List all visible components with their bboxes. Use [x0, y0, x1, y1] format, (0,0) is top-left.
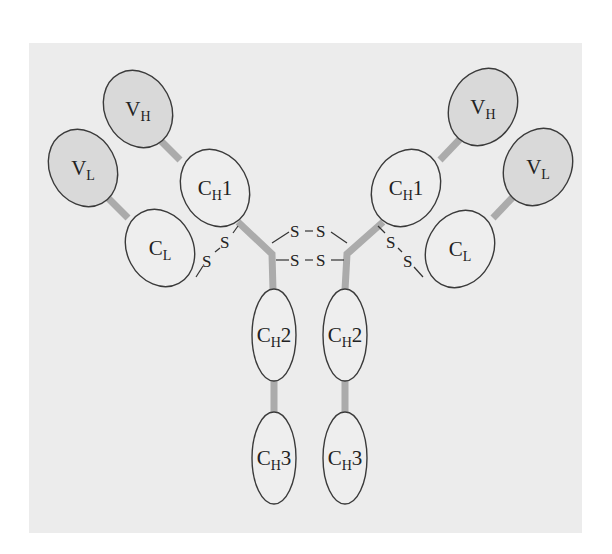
- left-interchain-s-upper: S: [220, 233, 229, 252]
- hinge-s-top-left: S: [290, 222, 299, 241]
- hinge-s-bottom-left: S: [290, 251, 299, 270]
- antibody-diagram: VHVLCH1CLCH2CH3VHVLCH1CLCH2CH3 S S S S S…: [0, 0, 612, 554]
- domain-right-ch3: CH3: [323, 412, 367, 504]
- domain-left-ch3: CH3: [252, 412, 296, 504]
- hinge-s-bottom-right: S: [316, 251, 325, 270]
- left-interchain-s-lower: S: [202, 252, 211, 271]
- right-interchain-s-lower: S: [403, 252, 412, 271]
- domain-right-ch2: CH2: [323, 289, 367, 381]
- hinge-s-top-right: S: [316, 222, 325, 241]
- right-interchain-s-upper: S: [386, 233, 395, 252]
- domain-left-ch2: CH2: [252, 289, 296, 381]
